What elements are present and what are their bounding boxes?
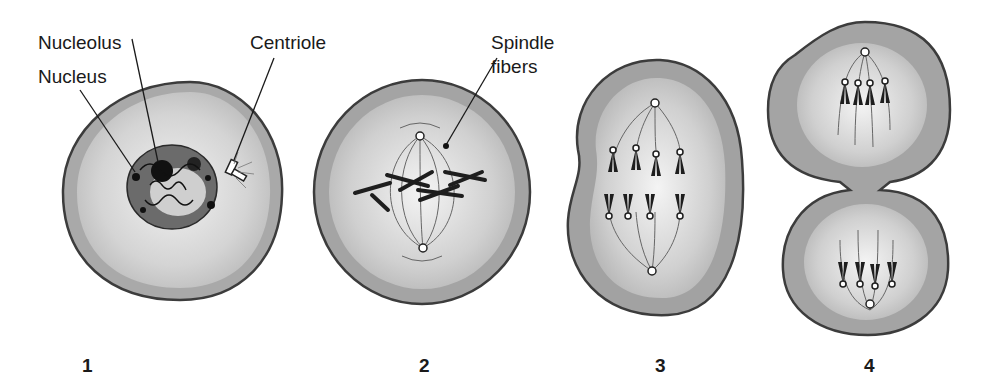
cell-stage-4 xyxy=(768,22,950,335)
cell-stage-3 xyxy=(568,60,743,315)
label-nucleus: Nucleus xyxy=(38,66,107,87)
label-spindle-fibers-line1: Spindle xyxy=(491,32,554,53)
nucleolus xyxy=(151,160,173,182)
stage-number-4: 4 xyxy=(864,355,875,377)
label-spindle-fibers-line2: fibers xyxy=(491,56,537,77)
label-centriole: Centriole xyxy=(250,32,326,53)
cell-stage-2 xyxy=(314,58,530,304)
stage-number-1: 1 xyxy=(82,355,93,377)
stage-number-2: 2 xyxy=(419,355,430,377)
label-nucleolus: Nucleolus xyxy=(38,32,121,53)
stage-number-3: 3 xyxy=(655,355,666,377)
